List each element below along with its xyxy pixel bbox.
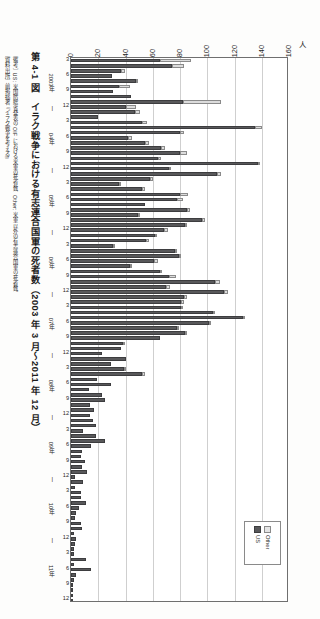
- bar-row: [71, 234, 157, 238]
- bar-segment-us: [71, 95, 131, 99]
- bar-row: [71, 357, 126, 361]
- bar-segment-other: [243, 316, 246, 320]
- bar-segment-other: [258, 162, 261, 166]
- month-tick: 12: [63, 412, 69, 418]
- bar-segment-us: [71, 300, 181, 304]
- bar-segment-us: [71, 336, 160, 340]
- bar-segment-us: [71, 496, 81, 500]
- year-label: 09年: [47, 442, 56, 454]
- bar-row: [71, 187, 145, 191]
- bar-segment-us: [71, 347, 121, 351]
- bar-segment-other: [187, 208, 190, 212]
- bar-segment-other: [177, 326, 179, 330]
- bar-segment-other: [180, 151, 187, 155]
- month-tick: 6: [66, 381, 69, 387]
- bar-segment-us: [71, 64, 172, 68]
- bar-segment-other: [119, 182, 122, 186]
- bar-row: [71, 321, 211, 325]
- bar-segment-us: [71, 357, 126, 361]
- bar-row: [71, 516, 75, 520]
- bar-row: [71, 115, 98, 119]
- bar-row: [71, 573, 76, 577]
- bar-segment-other: [135, 110, 140, 114]
- bar-segment-other: [181, 300, 184, 304]
- bar-segment-us: [71, 486, 75, 490]
- year-label: 08年: [47, 380, 56, 392]
- bar-row: [71, 552, 74, 556]
- bar-segment-other: [175, 249, 178, 253]
- bar-segment-us: [71, 501, 86, 505]
- bar-segment-other: [160, 270, 162, 274]
- bar-segment-other: [217, 172, 221, 176]
- bar-segment-other: [179, 254, 182, 258]
- bar-row: [71, 336, 160, 340]
- bar-row: [71, 69, 125, 73]
- bar-segment-other: [181, 306, 183, 310]
- bar-segment-other: [224, 290, 228, 294]
- bar-segment-us: [71, 527, 82, 531]
- bar-segment-us: [71, 198, 177, 202]
- bar-row: [71, 475, 75, 479]
- bar-segment-us: [71, 537, 76, 541]
- bar-segment-us: [71, 121, 142, 125]
- month-tick: 6: [66, 72, 69, 78]
- bar-segment-other: [215, 280, 219, 284]
- bar-row: [71, 522, 81, 526]
- bar-segment-us: [71, 516, 75, 520]
- bar-segment-other: [138, 213, 140, 217]
- bar-row: [71, 326, 179, 330]
- bar-segment-us: [71, 398, 105, 402]
- bar-segment-us: [71, 491, 81, 495]
- month-tick: 6: [66, 566, 69, 572]
- bar-segment-us: [71, 439, 105, 443]
- value-axis-tick: 60: [147, 49, 156, 57]
- bar-row: [71, 429, 83, 433]
- year-label: 07年: [47, 318, 56, 330]
- bar-segment-us: [71, 383, 111, 387]
- month-tick: 12: [63, 597, 69, 603]
- bar-segment-us: [71, 578, 74, 582]
- bar-row: [71, 193, 188, 197]
- bar-segment-us: [71, 141, 145, 145]
- bar-segment-us: [71, 259, 154, 263]
- value-axis-tick: 160: [284, 45, 293, 57]
- bar-segment-us: [71, 470, 87, 474]
- bar-row: [71, 244, 115, 248]
- bar-row: [71, 311, 215, 315]
- bar-segment-other: [142, 372, 145, 376]
- year-separator: |: [51, 352, 53, 358]
- bar-segment-other: [123, 342, 125, 346]
- bar-row: [71, 568, 91, 572]
- bar-segment-us: [71, 69, 121, 73]
- month-tick: 3: [66, 242, 69, 248]
- bar-segment-other: [158, 157, 161, 161]
- month-tick: 12: [63, 226, 69, 232]
- bar-row: [71, 419, 93, 423]
- gridline: [235, 58, 236, 601]
- month-tick: 3: [66, 57, 69, 63]
- bar-segment-us: [71, 136, 128, 140]
- bar-row: [71, 254, 181, 258]
- year-label: 2003年: [47, 73, 56, 92]
- bar-row: [71, 182, 121, 186]
- bar-segment-us: [71, 234, 155, 238]
- bar-segment-us: [71, 568, 91, 572]
- bar-row: [71, 480, 83, 484]
- bar-row: [71, 64, 184, 68]
- bar-row: [71, 460, 85, 464]
- bar-row: [71, 259, 158, 263]
- bar-row: [71, 383, 111, 387]
- bar-row: [71, 444, 91, 448]
- bar-segment-other: [177, 198, 182, 202]
- month-tick: 9: [66, 458, 69, 464]
- bar-segment-other: [136, 79, 138, 83]
- bar-segment-us: [71, 244, 113, 248]
- bar-segment-us: [71, 342, 123, 346]
- bar-row: [71, 264, 132, 268]
- month-tick: 9: [66, 211, 69, 217]
- bar-row: [71, 506, 79, 510]
- bar-row: [71, 213, 140, 217]
- year-separator: |: [51, 476, 53, 482]
- bar-row: [71, 578, 74, 582]
- bar-row: [71, 146, 165, 150]
